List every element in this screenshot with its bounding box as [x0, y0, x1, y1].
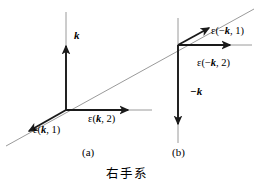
label-minus-k-symbol: k: [197, 85, 203, 97]
physics-vector-figure: k ε(k, 1) ε(k, 2) ε(−k, 1) ε(−k, 2) −k (…: [0, 0, 271, 188]
panel-label-b: (b): [172, 147, 185, 158]
label-epsilon-minus-k-2-prefix: ε(−: [197, 57, 211, 68]
label-vector-minus-k: −k: [190, 86, 202, 97]
label-epsilon-minus-k-1-prefix: ε(−: [211, 25, 225, 36]
label-epsilon-k-2-prefix: ε(: [88, 113, 96, 124]
label-vector-epsilon-minus-k-2: ε(−k, 2): [197, 58, 230, 69]
label-epsilon-k-1-prefix: ε(: [33, 124, 41, 135]
label-vector-epsilon-minus-k-1: ε(−k, 1): [211, 26, 244, 37]
label-minus-k-prefix: −: [190, 85, 197, 97]
panel-label-a: (a): [82, 147, 94, 158]
label-vector-epsilon-k-2: ε(k, 2): [88, 114, 115, 125]
label-epsilon-minus-k-2-suffix: , 2): [216, 57, 230, 68]
label-epsilon-k-2-suffix: , 2): [101, 113, 115, 124]
label-vector-k: k: [74, 30, 80, 41]
label-vector-epsilon-k-1: ε(k, 1): [33, 125, 60, 136]
label-epsilon-minus-k-1-suffix: , 1): [230, 25, 244, 36]
figure-caption: 右手系: [106, 168, 148, 181]
label-epsilon-k-1-suffix: , 1): [46, 124, 60, 135]
